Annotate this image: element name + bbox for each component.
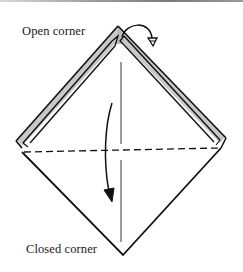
closed-corner-label: Closed corner bbox=[26, 242, 97, 257]
fold-down-arrow-icon bbox=[104, 103, 114, 202]
fold-line-dashed bbox=[24, 148, 220, 152]
origami-diagram bbox=[0, 0, 243, 272]
open-corner-label: Open corner bbox=[22, 24, 85, 39]
bottom-triangle bbox=[22, 148, 221, 255]
